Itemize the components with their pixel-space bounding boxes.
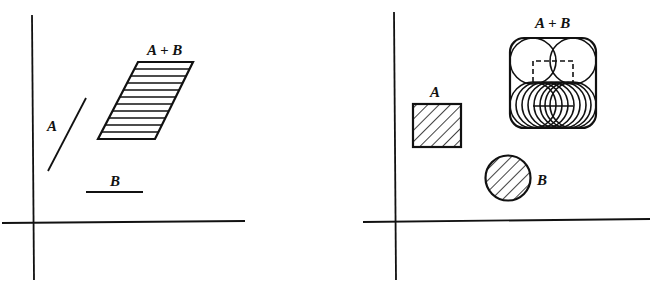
left-panel: A B A + B (2, 15, 245, 280)
label-b: B (536, 172, 547, 188)
x-axis (363, 219, 650, 222)
disk-b (486, 156, 531, 201)
label-a: A (46, 118, 57, 134)
label-sum: A + B (534, 15, 570, 31)
parallelogram-sum (98, 62, 193, 139)
y-axis (32, 15, 34, 280)
label-a: A (429, 84, 440, 100)
label-b: B (109, 173, 120, 189)
right-panel: A B A + B (363, 12, 650, 280)
segment-a (48, 98, 86, 171)
label-sum: A + B (146, 42, 182, 58)
y-axis (394, 12, 396, 280)
x-axis (2, 221, 245, 223)
square-a (413, 104, 461, 147)
minkowski-sum-diagram: A B A + B A (0, 0, 655, 287)
rounded-square-sum (510, 38, 596, 128)
